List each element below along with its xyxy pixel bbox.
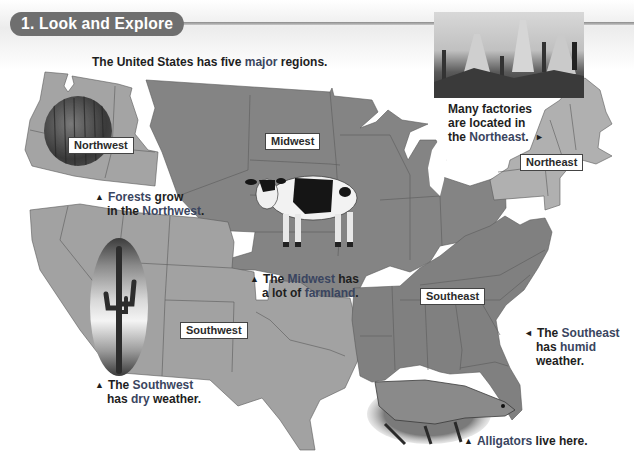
cow-photo [245, 168, 360, 250]
caption-southeast: ◄The Southeast has humid weather. [536, 326, 620, 368]
triangle-right-icon: ► [535, 132, 544, 142]
cow-illustration [245, 168, 360, 250]
factory-photo [434, 12, 584, 98]
factory-illustration [434, 12, 584, 98]
region-label-southeast: Southeast [420, 288, 485, 305]
region-label-northwest: Northwest [68, 137, 134, 154]
cactus-illustration [90, 238, 148, 376]
triangle-up-icon: ▲ [95, 192, 104, 202]
caption-northeast: Many factories are located in the Northe… [448, 102, 548, 144]
region-label-southwest: Southwest [180, 322, 248, 339]
triangle-left-icon: ◄ [524, 328, 533, 338]
caption-northwest: ▲Forests grow in the Northwest. [95, 190, 204, 218]
region-label-northeast: Northeast [520, 154, 583, 171]
cactus-photo [90, 238, 148, 376]
caption-alligators: ▲Alligators live here. [464, 434, 588, 448]
forest-texture [44, 96, 112, 166]
triangle-up-icon: ▲ [464, 436, 473, 446]
triangle-up-icon: ▲ [95, 380, 104, 390]
region-label-midwest: Midwest [265, 133, 320, 150]
forest-photo [44, 96, 112, 166]
caption-midwest: ▲The Midwest has a lot of farmland. [250, 272, 359, 300]
caption-southwest: ▲The Southwest has dry weather. [95, 378, 201, 406]
triangle-up-icon: ▲ [250, 274, 259, 284]
